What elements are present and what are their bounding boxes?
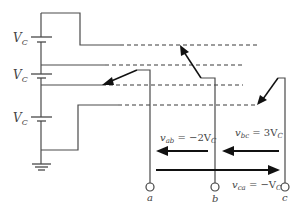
ground-icon xyxy=(32,164,51,170)
switch-b xyxy=(180,45,215,183)
terminal-b xyxy=(211,183,219,191)
source-label-1: VC xyxy=(13,31,28,47)
vbc-label: vbc = 3VC xyxy=(235,127,283,140)
vca-label: vca = −VC xyxy=(232,179,282,192)
vab-arrow-icon xyxy=(156,146,168,156)
source-label-3: VC xyxy=(13,111,28,127)
circuit-diagram: VC VC VC a b c vab = −2VC vbc = 3VC vca … xyxy=(0,0,305,215)
switch-a-arrowhead-icon xyxy=(102,77,114,85)
terminal-c xyxy=(281,183,289,191)
terminal-a-label: a xyxy=(147,192,153,203)
switch-a xyxy=(102,70,150,183)
voltage-arrows xyxy=(156,146,280,175)
terminal-c-label: c xyxy=(282,192,288,203)
source-label-2: VC xyxy=(13,68,28,84)
terminal-b-label: b xyxy=(212,193,218,204)
vab-label: vab = −2VC xyxy=(160,132,217,145)
vbc-arrow-icon xyxy=(222,146,234,156)
vca-arrow-icon xyxy=(268,165,280,175)
source-stack xyxy=(31,13,52,170)
switch-b-arrowhead-icon xyxy=(180,45,189,56)
terminal-a xyxy=(146,183,154,191)
